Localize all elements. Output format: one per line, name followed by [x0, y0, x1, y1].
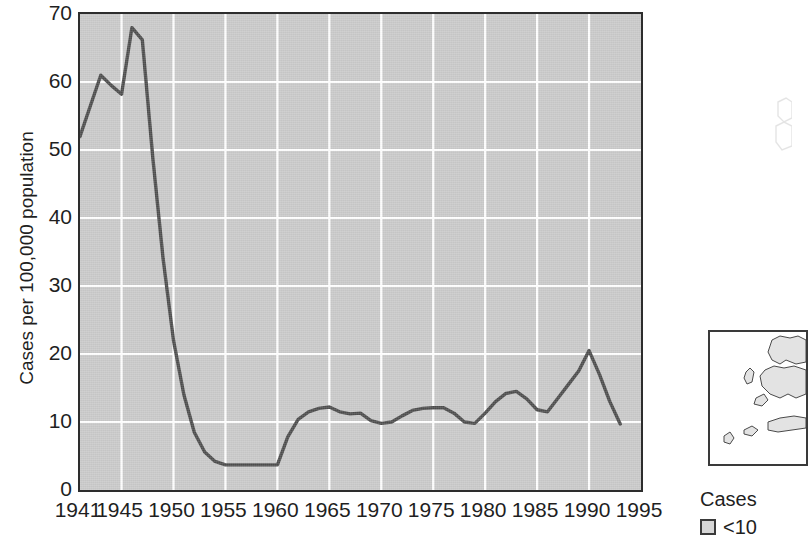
legend-entry-0: <10 [700, 517, 792, 537]
legend: Cases <10 [700, 487, 792, 537]
y-axis-tick-label: 60 [24, 70, 72, 91]
legend-entry-label: <10 [723, 517, 757, 537]
y-axis-tick-label: 20 [24, 342, 72, 363]
y-axis-tick-labels: 706050403020100 [20, 0, 72, 534]
map-fragment-svg [752, 96, 792, 156]
plot-area [78, 12, 643, 492]
x-axis-tick-label: 1995 [604, 498, 674, 522]
map-inset [708, 330, 808, 466]
gridlines [80, 14, 641, 490]
legend-swatch-icon [700, 519, 716, 535]
y-axis-tick-label: 0 [24, 478, 72, 499]
legend-title: Cases [700, 487, 792, 511]
y-axis-tick-label: 40 [24, 206, 72, 227]
x-axis-tick-labels: 1941194519501955196019651970197519801985… [0, 498, 774, 530]
y-axis-tick-label: 50 [24, 138, 72, 159]
map-fragment-icon [752, 96, 792, 156]
map-landmass-shapes [724, 336, 806, 444]
data-line-series [80, 28, 620, 465]
map-inset-svg [710, 332, 806, 464]
y-axis-tick-label: 70 [24, 2, 72, 23]
y-axis-tick-label: 10 [24, 410, 72, 431]
y-axis-tick-label: 30 [24, 274, 72, 295]
plot-svg [80, 14, 641, 490]
